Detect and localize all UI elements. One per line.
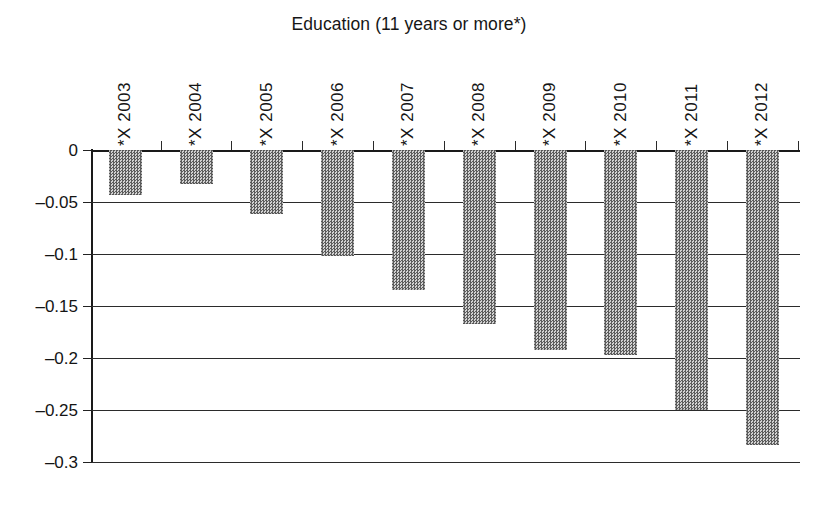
- gridline: [92, 462, 800, 463]
- y-axis-tick: [83, 358, 92, 359]
- bar: [675, 150, 708, 410]
- x-axis-tick: [515, 141, 516, 150]
- x-axis-tick: [161, 141, 162, 150]
- x-axis-tick: [231, 141, 232, 150]
- bar: [534, 150, 567, 350]
- bar: [463, 150, 496, 324]
- x-axis-tick-label: *X 2012: [753, 82, 770, 146]
- bar: [746, 150, 779, 445]
- y-axis-tick: [83, 410, 92, 411]
- x-axis-tick: [302, 141, 303, 150]
- bar: [604, 150, 637, 355]
- x-axis-tick: [656, 141, 657, 150]
- x-axis-tick: [798, 141, 799, 150]
- x-axis-tick-label: *X 2005: [258, 82, 275, 146]
- x-axis-tick-label: *X 2010: [612, 82, 629, 146]
- bar: [321, 150, 354, 256]
- y-axis-tick: [83, 462, 92, 463]
- x-axis-tick-label: *X 2008: [470, 82, 487, 146]
- x-axis-tick-label: *X 2009: [541, 82, 558, 146]
- bar: [180, 150, 213, 184]
- x-axis-tick-label: *X 2006: [329, 82, 346, 146]
- x-axis-tick: [585, 141, 586, 150]
- bar: [250, 150, 283, 214]
- y-axis-tick-label: –0.3: [4, 454, 78, 471]
- bar: [109, 150, 142, 195]
- y-axis-tick-label: –0.2: [4, 350, 78, 367]
- y-axis-tick-label: –0.05: [4, 194, 78, 211]
- y-axis-tick-label: –0.25: [4, 402, 78, 419]
- x-axis-tick-label: *X 2011: [683, 83, 700, 146]
- x-axis-label-group: *X 2003*X 2004*X 2005*X 2006*X 2007*X 20…: [92, 0, 800, 146]
- x-axis-tick: [727, 141, 728, 150]
- y-axis-tick: [83, 254, 92, 255]
- x-axis-tick: [373, 141, 374, 150]
- y-axis-tick: [83, 150, 92, 151]
- x-axis-tick-label: *X 2007: [399, 82, 416, 146]
- y-axis-tick-label: 0: [4, 142, 78, 159]
- chart-figure: Education (11 years or more*) *X 2003*X …: [0, 0, 818, 507]
- plot-area: 0–0.05–0.1–0.15–0.2–0.25–0.3: [92, 150, 800, 462]
- y-axis-tick: [83, 306, 92, 307]
- bar: [392, 150, 425, 290]
- y-axis-tick-label: –0.15: [4, 298, 78, 315]
- y-axis-tick: [83, 202, 92, 203]
- y-axis-tick-label: –0.1: [4, 246, 78, 263]
- x-axis-tick-label: *X 2004: [187, 82, 204, 146]
- gridline: [92, 410, 800, 411]
- x-axis-tick-label: *X 2003: [116, 82, 133, 146]
- x-axis-tick: [444, 141, 445, 150]
